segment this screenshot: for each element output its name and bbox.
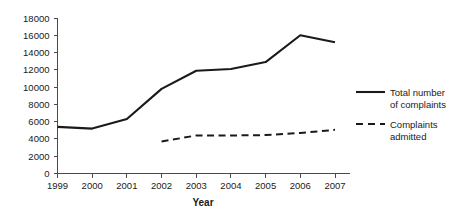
series-line-total-complaints: [58, 35, 336, 128]
x-tick-label: 2000: [82, 180, 103, 191]
y-tick-label: 2000: [28, 151, 49, 162]
x-tick-label: 2003: [186, 180, 207, 191]
x-axis: 199920002001200220032004200520062007 Yea…: [47, 174, 350, 209]
x-tick-label: 2005: [255, 180, 276, 191]
y-tick-label: 8000: [28, 99, 49, 110]
x-tick-label: 2006: [290, 180, 311, 191]
x-tick-group: [58, 174, 336, 178]
y-tick-label-group: 0200040006000800010000120001400016000180…: [23, 13, 49, 180]
legend: Total number of complaints Complaints ad…: [356, 87, 446, 142]
y-tick-label: 4000: [28, 133, 49, 144]
y-tick-label: 10000: [23, 82, 49, 93]
legend-label-total-complaints-line1: Total number: [390, 87, 445, 98]
x-tick-label: 2007: [324, 180, 345, 191]
y-tick-label: 14000: [23, 47, 49, 58]
y-axis: 0200040006000800010000120001400016000180…: [23, 13, 57, 180]
x-tick-label: 2002: [151, 180, 172, 191]
y-tick-label: 18000: [23, 13, 49, 24]
x-tick-label: 2004: [220, 180, 241, 191]
y-tick-label: 16000: [23, 30, 49, 41]
x-tick-label-group: 199920002001200220032004200520062007: [47, 180, 346, 191]
y-tick-label: 12000: [23, 64, 49, 75]
chart-canvas: 0200040006000800010000120001400016000180…: [0, 0, 461, 217]
y-tick-label: 0: [44, 168, 49, 179]
y-tick-group: [54, 18, 58, 174]
legend-label-total-complaints-line2: of complaints: [390, 99, 446, 110]
line-chart: 0200040006000800010000120001400016000180…: [0, 0, 461, 217]
legend-label-complaints-admitted-line2: admitted: [390, 131, 426, 142]
x-tick-label: 2001: [116, 180, 137, 191]
series-line-complaints-admitted: [162, 130, 335, 142]
x-tick-label: 1999: [47, 180, 68, 191]
data-series-group: [58, 35, 336, 141]
legend-label-complaints-admitted-line1: Complaints: [390, 119, 438, 130]
x-axis-title: Year: [192, 197, 213, 208]
y-tick-label: 6000: [28, 116, 49, 127]
